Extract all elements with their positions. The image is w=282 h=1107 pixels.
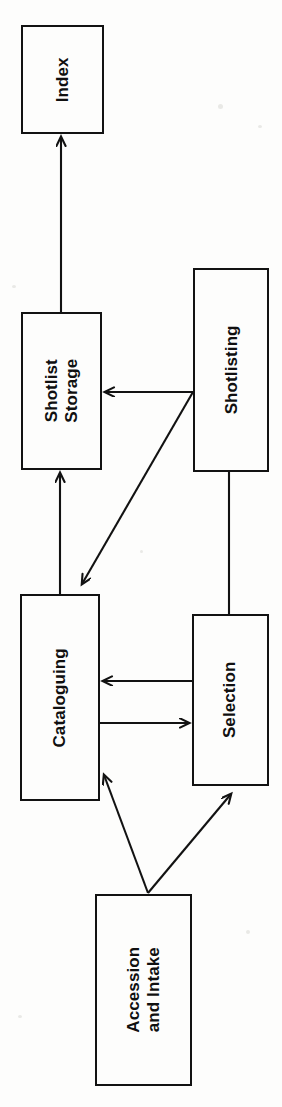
scan-speck: [246, 930, 250, 934]
node-accession-and-intake[interactable]: Accession and Intake: [95, 894, 192, 1086]
node-shotlist-storage-label: Shotlist Storage: [42, 359, 81, 423]
flowchart-page: Index Shotlist Storage Shotlisting Catal…: [0, 0, 282, 1107]
scan-speck: [140, 550, 143, 553]
node-shotlisting-label: Shotlisting: [221, 326, 241, 415]
scan-speck: [258, 125, 262, 128]
scan-speck: [218, 104, 223, 109]
node-index[interactable]: Index: [21, 25, 104, 134]
node-accession-and-intake-label: Accession and Intake: [124, 947, 163, 1033]
node-shotlisting[interactable]: Shotlisting: [193, 268, 269, 472]
node-selection-label: Selection: [221, 662, 241, 738]
edge-accession-to-selection: [148, 794, 231, 893]
node-index-label: Index: [53, 57, 73, 102]
scan-speck: [18, 1015, 22, 1018]
node-selection[interactable]: Selection: [192, 614, 269, 786]
scan-speck: [12, 285, 16, 288]
node-shotlist-storage[interactable]: Shotlist Storage: [21, 312, 102, 470]
edge-accession-to-cataloguing: [104, 775, 148, 893]
node-cataloguing-label: Cataloguing: [50, 648, 70, 747]
node-cataloguing[interactable]: Cataloguing: [20, 594, 100, 801]
